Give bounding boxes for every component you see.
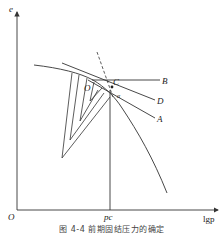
- line-A-label: A: [156, 114, 163, 124]
- preconsolidation-pressure-diagram: e O lgp pc B D A C O α: [0, 0, 224, 237]
- origin-label: O: [8, 212, 15, 222]
- line-B-label: B: [162, 76, 168, 86]
- line-D-label: D: [156, 96, 164, 106]
- compression-curve: [34, 65, 167, 193]
- point-C-label: C: [113, 77, 120, 87]
- figure-caption: 图 4-4 前期固结压力的确定: [0, 223, 224, 234]
- pc-label: pc: [103, 212, 113, 222]
- y-axis-label: e: [9, 4, 13, 14]
